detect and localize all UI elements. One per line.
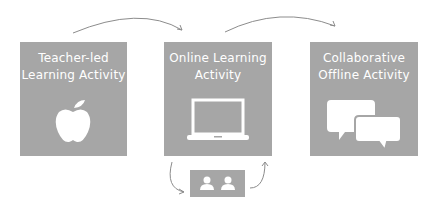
peer-pair-box [190,170,245,197]
arrow-peers-to-online [250,162,265,188]
apple-icon [55,98,91,144]
online-title: Online Learning Activity [164,50,272,84]
arrow-online-to-peers [170,162,184,192]
arrow-teacher-to-online [73,18,182,33]
teacher-led-activity-box: Teacher-led Learning Activity [20,42,127,156]
collaborative-activity-box: Collaborative Offline Activity [310,42,418,156]
arrow-online-to-collaborative [225,17,335,32]
laptop-icon [187,98,249,142]
collaborative-title: Collaborative Offline Activity [310,50,418,84]
speech-bubbles-icon [327,98,401,150]
two-people-icon [200,176,236,191]
online-activity-box: Online Learning Activity [164,42,272,156]
teacher-led-title: Teacher-led Learning Activity [20,50,127,84]
